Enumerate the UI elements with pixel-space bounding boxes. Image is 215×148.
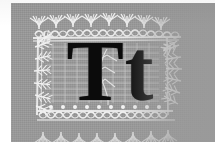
lowercase-letter-t: t bbox=[125, 36, 154, 107]
uppercase-letter-t: T bbox=[66, 36, 123, 107]
gray-panel: T t bbox=[11, 3, 215, 142]
letter-specimen: T t bbox=[11, 3, 215, 142]
specimen-plate: T t bbox=[0, 0, 215, 148]
